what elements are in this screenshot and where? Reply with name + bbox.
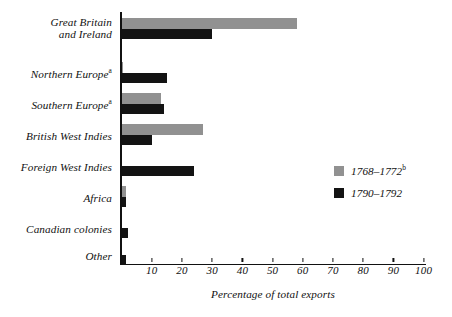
bar-southern-europe-1790-1792 <box>122 104 164 115</box>
category-label-foreign-west-indies: Foreign West Indies <box>21 161 112 174</box>
tick-mark-20 <box>181 258 182 262</box>
tick-label-100: 100 <box>415 264 432 276</box>
export-percentage-bar-chart: Great Britainand IrelandNorthern Europea… <box>0 0 452 317</box>
tick-label-60: 60 <box>297 264 308 276</box>
legend-item-1768-1772: 1768–1772b <box>334 160 406 182</box>
bar-british-west-indies-1790-1792 <box>122 135 152 146</box>
tick-mark-60 <box>302 258 303 262</box>
tick-label-30: 30 <box>206 264 217 276</box>
category-label-southern-europe: Southern Europea <box>31 99 112 112</box>
category-axis-labels: Great Britainand IrelandNorthern Europea… <box>0 0 118 260</box>
bar-great-britain-and-ireland-1768-1772 <box>122 18 297 29</box>
bar-africa-1790-1792 <box>122 197 127 208</box>
tick-mark-10 <box>151 258 152 262</box>
tick-mark-40 <box>242 258 243 262</box>
category-label-canadian-colonies: Canadian colonies <box>26 223 112 236</box>
bar-northern-europe-1768-1772 <box>122 62 124 73</box>
category-label-africa: Africa <box>83 192 112 205</box>
tick-label-50: 50 <box>267 264 278 276</box>
tick-mark-50 <box>272 258 273 262</box>
tick-mark-30 <box>212 258 213 262</box>
bar-foreign-west-indies-1790-1792 <box>122 166 194 177</box>
bar-canadian-colonies-1790-1792 <box>122 228 128 239</box>
plot-area <box>120 12 426 264</box>
tick-mark-70 <box>332 258 333 262</box>
x-axis-title: Percentage of total exports <box>120 288 426 300</box>
chart-legend: 1768–1772b1790–1792 <box>334 160 406 204</box>
tick-mark-80 <box>363 258 364 262</box>
category-label-other: Other <box>85 250 112 263</box>
tick-mark-100 <box>423 258 424 262</box>
tick-mark-90 <box>393 258 394 262</box>
legend-label: 1768–1772b <box>351 165 406 177</box>
bar-northern-europe-1790-1792 <box>122 73 167 84</box>
category-label-northern-europe: Northern Europea <box>31 68 112 81</box>
legend-label: 1790–1792 <box>351 187 402 199</box>
bar-british-west-indies-1768-1772 <box>122 124 204 135</box>
category-label-great-britain: Great Britainand Ireland <box>51 16 112 41</box>
legend-item-1790-1792: 1790–1792 <box>334 182 406 204</box>
tick-label-90: 90 <box>388 264 399 276</box>
tick-label-70: 70 <box>327 264 338 276</box>
legend-swatch-icon <box>334 166 344 176</box>
bar-great-britain-and-ireland-1790-1792 <box>122 29 213 40</box>
bar-africa-1768-1772 <box>122 186 127 197</box>
tick-label-10: 10 <box>146 264 157 276</box>
tick-label-80: 80 <box>357 264 368 276</box>
bar-southern-europe-1768-1772 <box>122 93 161 104</box>
legend-swatch-icon <box>334 188 344 198</box>
value-axis-ticks: 102030405060708090100 <box>120 264 440 282</box>
category-label-british-west-indies: British West Indies <box>26 130 112 143</box>
tick-label-20: 20 <box>176 264 187 276</box>
tick-label-40: 40 <box>237 264 248 276</box>
